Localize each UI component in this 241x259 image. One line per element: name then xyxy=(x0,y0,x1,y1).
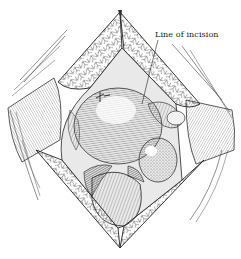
central-organ-highlight xyxy=(96,96,136,124)
upper-right-ovary xyxy=(167,111,185,125)
right-retracted-muscle xyxy=(186,100,235,164)
left-retracted-muscle xyxy=(8,78,61,162)
surgical-illustration: Line of incision xyxy=(0,0,241,259)
line-of-incision-label: Line of incision xyxy=(155,30,219,39)
lower-right-ovary xyxy=(139,138,177,182)
ovary-highlight xyxy=(145,146,157,156)
